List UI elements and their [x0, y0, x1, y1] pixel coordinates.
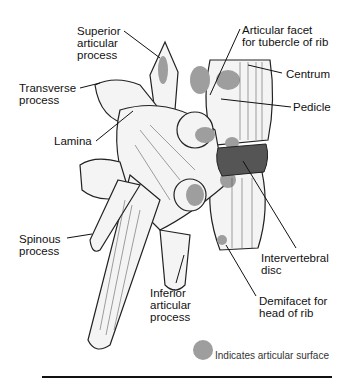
label-intervertebral-disc: Intervertebral disc: [261, 252, 329, 276]
bottom-rule: [42, 376, 332, 378]
label-lamina: Lamina: [54, 135, 92, 147]
label-demifacet-head: Demifacet for head of rib: [259, 295, 327, 319]
label-centrum: Centrum: [286, 68, 330, 80]
label-spinous-process: Spinous process: [19, 233, 61, 257]
label-superior-articular-process: Superior articular process: [77, 25, 120, 61]
vertebra-illustration: [0, 0, 358, 384]
label-inferior-articular-process: Inferior articular process: [150, 287, 191, 323]
label-pedicle: Pedicle: [293, 101, 331, 113]
label-transverse-process: Transverse process: [19, 82, 76, 106]
legend-text: Indicates articular surface: [215, 350, 329, 361]
articular-surface-legend-icon: [193, 340, 213, 360]
label-articular-facet-tubercle: Articular facet for tubercle of rib: [242, 24, 328, 48]
